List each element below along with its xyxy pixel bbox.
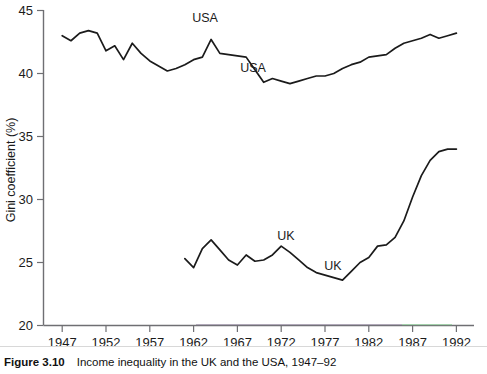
caption-divider	[0, 346, 487, 347]
x-tick-group: 1947 1952 1957 1962 1967 1972 1977 1982 …	[48, 326, 471, 348]
y-tick-group: 20 25 30 35 40 45	[19, 3, 44, 333]
figure-container: Gini coefficient (%) 20 25 30 35 40 45 1…	[0, 0, 487, 374]
figure-caption: Figure 3.10 Income inequality in the UK …	[0, 349, 487, 374]
figure-number: Figure 3.10	[4, 356, 65, 368]
y-tick-label: 45	[19, 3, 33, 18]
usa-label-upper: USA	[192, 11, 218, 25]
uk-label-lower: UK	[324, 259, 342, 273]
line-chart: Gini coefficient (%) 20 25 30 35 40 45 1…	[0, 0, 487, 347]
y-axis-title: Gini coefficient (%)	[4, 118, 18, 223]
usa-series-line	[62, 31, 456, 84]
y-tick-label: 30	[19, 192, 33, 207]
usa-label-lower: USA	[240, 61, 266, 75]
y-tick-label: 25	[19, 255, 33, 270]
y-tick-label: 35	[19, 129, 33, 144]
y-tick-label: 20	[19, 318, 33, 333]
y-tick-label: 40	[19, 66, 33, 81]
uk-label-upper: UK	[277, 229, 295, 243]
figure-caption-text: Income inequality in the UK and the USA,…	[77, 356, 337, 368]
uk-series-line	[185, 149, 457, 280]
